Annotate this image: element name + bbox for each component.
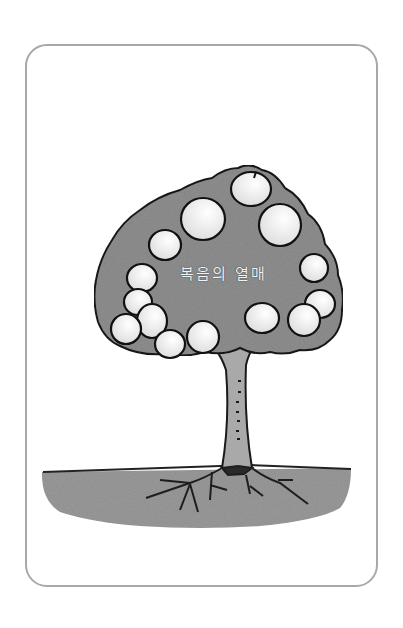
tree-illustration: [0, 0, 403, 628]
fruit: [259, 204, 301, 246]
fruit: [231, 172, 271, 206]
fruit: [127, 264, 157, 292]
fruit: [245, 303, 279, 333]
fruit: [187, 321, 219, 353]
tree-title: 복음의 열매: [180, 262, 267, 283]
fruit: [300, 254, 328, 282]
fruit: [149, 230, 181, 260]
fruit: [111, 314, 141, 344]
fruit: [181, 198, 225, 240]
fruit: [155, 330, 185, 358]
fruit: [288, 304, 320, 336]
ground: [42, 465, 351, 528]
